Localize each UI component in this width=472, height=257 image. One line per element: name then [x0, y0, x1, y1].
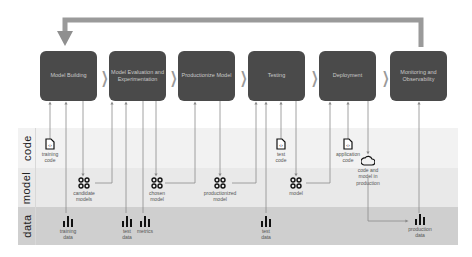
code-file-icon: ‹›	[45, 138, 55, 150]
model-icon	[78, 177, 90, 189]
stage-productionize-model[interactable]: Productionize Model	[178, 51, 235, 101]
artifact-test-data-testing: testdata	[256, 216, 276, 241]
chevron-right-icon: ❯	[240, 68, 247, 87]
artifact-production-data: productiondata	[405, 214, 435, 239]
model-icon	[214, 177, 226, 189]
artifact-training-data: trainingdata	[56, 216, 80, 241]
code-file-icon: ‹›	[343, 138, 353, 150]
artifact-candidate-models: candidatemodels	[70, 177, 98, 203]
artifact-metrics: metrics	[134, 216, 156, 234]
bar-chart-icon	[122, 216, 132, 227]
feedback-loop-arrow	[57, 20, 421, 47]
stage-deployment[interactable]: Deployment	[319, 51, 376, 101]
model-icon	[290, 177, 302, 189]
stage-testing[interactable]: Testing	[248, 51, 305, 101]
chevron-right-icon: ❯	[311, 68, 318, 87]
bar-chart-icon	[261, 216, 271, 227]
artifact-productionized-model: productionizedmodel	[202, 177, 238, 203]
svg-text:‹›: ‹›	[48, 142, 52, 148]
artifact-test-code: ‹› testcode	[269, 138, 293, 164]
bar-chart-icon	[140, 216, 150, 227]
svg-text:‹›: ‹›	[279, 142, 283, 148]
chevron-right-icon: ❯	[382, 68, 389, 87]
artifact-chosen-model: chosenmodel	[143, 177, 171, 203]
code-file-icon: ‹›	[276, 138, 286, 150]
cloud-icon	[361, 155, 375, 166]
stage-monitoring[interactable]: Monitoring and Observability	[390, 51, 447, 101]
model-icon	[151, 177, 163, 189]
bar-chart-icon	[415, 214, 425, 225]
stage-model-building[interactable]: Model Building	[40, 51, 97, 101]
artifact-code-and-model-in-production: code andmodel inproduction	[353, 155, 383, 186]
stage-model-evaluation[interactable]: Model Evaluation and Experimentation	[109, 51, 166, 101]
bar-chart-icon	[63, 216, 73, 227]
chevron-right-icon: ❯	[170, 68, 177, 87]
artifact-model: model	[284, 177, 308, 196]
chevron-right-icon: ❯	[101, 68, 108, 87]
artifact-training-code: ‹› trainingcode	[38, 138, 62, 164]
svg-text:‹›: ‹›	[346, 142, 350, 148]
